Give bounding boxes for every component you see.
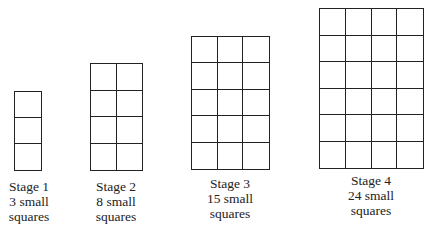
small-square — [192, 37, 218, 63]
small-square — [346, 89, 372, 116]
small-square — [192, 143, 218, 169]
small-square — [372, 115, 398, 142]
small-square — [91, 91, 117, 118]
small-square — [117, 91, 143, 118]
small-square — [117, 117, 143, 144]
stage-3-grid — [191, 36, 270, 170]
small-square — [372, 89, 398, 116]
small-square — [243, 37, 269, 63]
small-square — [397, 89, 423, 116]
stage-unit: squares — [0, 209, 69, 224]
stage-2-label: Stage 2 8 small squares — [76, 179, 156, 224]
small-square — [397, 9, 423, 36]
small-square — [192, 116, 218, 142]
small-square — [243, 90, 269, 116]
small-square — [243, 143, 269, 169]
small-square — [15, 118, 41, 144]
stage-4-grid — [319, 8, 424, 169]
small-square — [218, 90, 244, 116]
small-square — [320, 142, 346, 169]
stage-count: 15 small — [190, 191, 270, 206]
small-square — [243, 63, 269, 89]
small-square — [372, 62, 398, 89]
stage-unit: squares — [76, 209, 156, 224]
stage-2-grid — [90, 63, 143, 171]
stage-title: Stage 4 — [331, 173, 411, 188]
small-square — [218, 63, 244, 89]
small-square — [15, 144, 41, 170]
small-square — [243, 116, 269, 142]
stage-4-label: Stage 4 24 small squares — [331, 173, 411, 218]
small-square — [397, 142, 423, 169]
small-square — [320, 115, 346, 142]
small-square — [346, 9, 372, 36]
small-square — [372, 36, 398, 63]
stage-title: Stage 3 — [190, 176, 270, 191]
stage-1-label: Stage 1 3 small squares — [0, 179, 69, 224]
small-square — [397, 62, 423, 89]
small-square — [117, 64, 143, 91]
small-square — [218, 143, 244, 169]
small-square — [218, 37, 244, 63]
stage-title: Stage 2 — [76, 179, 156, 194]
stage-1-grid — [14, 91, 42, 171]
small-square — [192, 90, 218, 116]
small-square — [15, 92, 41, 118]
small-square — [346, 62, 372, 89]
small-square — [372, 9, 398, 36]
small-square — [320, 89, 346, 116]
small-square — [192, 63, 218, 89]
small-square — [346, 115, 372, 142]
stage-count: 3 small — [0, 194, 69, 209]
stage-unit: squares — [190, 206, 270, 221]
small-square — [91, 144, 117, 171]
small-square — [218, 116, 244, 142]
small-square — [320, 9, 346, 36]
small-square — [346, 36, 372, 63]
small-square — [397, 115, 423, 142]
small-square — [372, 142, 398, 169]
small-square — [117, 144, 143, 171]
stage-3-label: Stage 3 15 small squares — [190, 176, 270, 221]
stage-unit: squares — [331, 203, 411, 218]
small-square — [320, 36, 346, 63]
small-square — [91, 117, 117, 144]
small-square — [397, 36, 423, 63]
small-square — [346, 142, 372, 169]
small-square — [320, 62, 346, 89]
small-square — [91, 64, 117, 91]
stage-count: 8 small — [76, 194, 156, 209]
stage-count: 24 small — [331, 188, 411, 203]
stage-title: Stage 1 — [0, 179, 69, 194]
